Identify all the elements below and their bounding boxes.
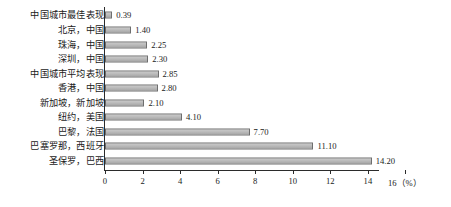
bar-value-label: 11.10	[317, 141, 336, 151]
x-tick-mark	[143, 170, 144, 174]
bar	[105, 12, 112, 19]
bar	[105, 128, 250, 135]
bar-row: 纽约，美国4.10	[0, 110, 451, 125]
bar-value-label: 2.85	[163, 69, 178, 79]
x-tick-label: 4	[178, 176, 182, 186]
x-tick-label: 2	[140, 176, 144, 186]
category-label: 巴黎，法国	[58, 127, 104, 136]
x-tick-mark	[255, 170, 256, 174]
x-tick-label: 0	[103, 176, 107, 186]
bar-row: 中国城市平均表现2.85	[0, 66, 451, 81]
category-label: 中国城市最佳表现	[30, 11, 104, 20]
category-label: 圣保罗，巴西	[49, 156, 104, 165]
category-label: 深圳，中国	[58, 55, 104, 64]
bar-value-label: 2.10	[148, 98, 163, 108]
bar	[105, 85, 158, 92]
x-tick-mark	[405, 170, 406, 174]
bar-value-label: 14.20	[376, 156, 395, 166]
bar-value-label: 7.70	[254, 127, 269, 137]
x-tick-label: 14	[364, 176, 373, 186]
bar	[105, 99, 144, 106]
bar-row: 中国城市最佳表现0.39	[0, 8, 451, 23]
bar	[105, 114, 182, 121]
x-axis-line	[104, 170, 379, 171]
category-label: 新加坡，新加坡	[40, 98, 104, 107]
bar	[105, 70, 159, 77]
bar	[105, 56, 148, 63]
bar-row: 巴塞罗那，西班牙11.10	[0, 139, 451, 154]
plot-area: 中国城市最佳表现0.39北京，中国1.40珠海，中国2.25深圳，中国2.30中…	[0, 0, 451, 175]
bar	[105, 41, 147, 48]
x-tick-mark	[105, 170, 106, 174]
bar-value-label: 0.39	[116, 10, 131, 20]
x-tick-label: 10	[289, 176, 298, 186]
category-label: 中国城市平均表现	[30, 69, 104, 78]
bar-row: 香港，中国2.80	[0, 81, 451, 96]
x-tick-label: 8	[253, 176, 257, 186]
x-tick-mark	[330, 170, 331, 174]
bar-value-label: 2.30	[152, 54, 167, 64]
x-tick-mark	[180, 170, 181, 174]
x-tick-mark	[293, 170, 294, 174]
x-tick-mark	[218, 170, 219, 174]
category-label: 巴塞罗那，西班牙	[30, 142, 104, 151]
bar-row: 北京，中国1.40	[0, 23, 451, 38]
x-tick-label: 6	[216, 176, 220, 186]
x-tick-mark	[368, 170, 369, 174]
bar-chart-figure: 中国城市最佳表现0.39北京，中国1.40珠海，中国2.25深圳，中国2.30中…	[0, 0, 451, 207]
category-label: 珠海，中国	[58, 40, 104, 49]
category-label: 香港，中国	[58, 84, 104, 93]
bar-row: 巴黎，法国7.70	[0, 125, 451, 140]
bar-value-label: 4.10	[186, 112, 201, 122]
x-axis-unit-label: 16（%）	[388, 176, 422, 188]
bar	[105, 143, 313, 150]
bar-value-label: 1.40	[135, 25, 150, 35]
bar-row: 珠海，中国2.25	[0, 37, 451, 52]
bar-row: 深圳，中国2.30	[0, 52, 451, 67]
bar-value-label: 2.80	[162, 83, 177, 93]
category-label: 纽约，美国	[58, 113, 104, 122]
bar-row: 新加坡，新加坡2.10	[0, 96, 451, 111]
category-label: 北京，中国	[58, 25, 104, 34]
bar	[105, 27, 131, 34]
bar	[105, 157, 372, 164]
x-tick-label: 12	[326, 176, 335, 186]
bar-value-label: 2.25	[151, 40, 166, 50]
bar-row: 圣保罗，巴西14.20	[0, 154, 451, 169]
